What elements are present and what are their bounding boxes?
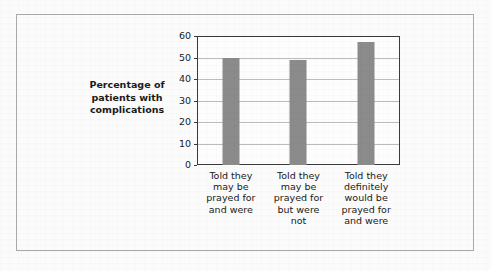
y-tick-label-20: 20 bbox=[165, 117, 191, 127]
x-label-3-line-4: prayed for bbox=[332, 204, 400, 215]
bar-2 bbox=[290, 60, 307, 165]
x-label-1-line-2: may be bbox=[197, 181, 265, 192]
bar-slot-1 bbox=[197, 36, 265, 165]
y-tick-label-0: 0 bbox=[165, 160, 191, 170]
bar-slot-2 bbox=[265, 36, 333, 165]
figure-bar-chart: Percentage of patients with complication… bbox=[0, 0, 491, 270]
x-label-2-line-4: but were bbox=[265, 204, 333, 215]
x-label-2-line-3: prayed for bbox=[265, 192, 333, 203]
x-axis-category-labels: Told theymay beprayed forand wereTold th… bbox=[197, 170, 400, 232]
x-label-1: Told theymay beprayed forand were bbox=[197, 170, 265, 215]
y-tick-label-60: 60 bbox=[165, 31, 191, 41]
y-tick-label-50: 50 bbox=[165, 53, 191, 63]
x-label-3-line-1: Told they bbox=[332, 170, 400, 181]
x-label-2-line-2: may be bbox=[265, 181, 333, 192]
x-label-2: Told theymay beprayed forbut werenot bbox=[265, 170, 333, 226]
bar-1 bbox=[222, 58, 239, 166]
x-label-1-line-3: prayed for bbox=[197, 192, 265, 203]
y-tick-label-40: 40 bbox=[165, 74, 191, 84]
x-label-2-line-5: not bbox=[265, 215, 333, 226]
bar-3 bbox=[358, 42, 375, 165]
y-tick-label-10: 10 bbox=[165, 139, 191, 149]
bar-series bbox=[197, 36, 400, 165]
bar-slot-3 bbox=[332, 36, 400, 165]
x-label-2-line-1: Told they bbox=[265, 170, 333, 181]
y-tick-label-30: 30 bbox=[165, 96, 191, 106]
y-tick-mark-0 bbox=[194, 165, 197, 166]
x-label-3: Told theydefinitelywould beprayed forand… bbox=[332, 170, 400, 226]
x-label-3-line-2: definitely bbox=[332, 181, 400, 192]
x-label-1-line-4: and were bbox=[197, 204, 265, 215]
x-label-3-line-3: would be bbox=[332, 192, 400, 203]
y-axis-title-line-3: complications bbox=[72, 104, 182, 117]
x-label-1-line-1: Told they bbox=[197, 170, 265, 181]
x-label-3-line-5: and were bbox=[332, 215, 400, 226]
